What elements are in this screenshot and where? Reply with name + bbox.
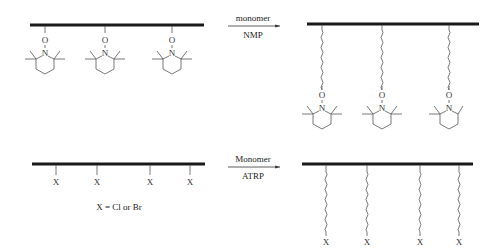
nitrogen-atom: N	[379, 103, 386, 113]
halogen-atom: X	[187, 177, 194, 187]
halogen-atom: X	[456, 237, 463, 247]
oxygen-atom: O	[102, 35, 109, 45]
polymer-grafting-scheme: O N O N O N monomer NMP	[0, 0, 499, 250]
atrp-reaction-arrow: Monomer ATRP	[228, 154, 280, 181]
halogen-legend: X = Cl or Br	[96, 202, 142, 212]
halogen-atom: X	[323, 237, 330, 247]
nmp-reaction-arrow: monomer NMP	[228, 13, 280, 40]
grafted-chain-tempo: O N	[362, 25, 402, 129]
nitrogen-atom: N	[319, 103, 326, 113]
tempo-pendant: O N	[85, 26, 125, 74]
oxygen-atom: O	[169, 35, 176, 45]
halogen-atom: X	[94, 177, 101, 187]
oxygen-atom: O	[446, 90, 453, 100]
atrp-reactant: X X X X X = Cl or Br	[32, 164, 205, 212]
halogen-atom: X	[53, 177, 60, 187]
nitrogen-atom: N	[446, 103, 453, 113]
nmp-product: O N O N O N	[302, 24, 479, 129]
grafted-chain-tempo: O N	[302, 25, 342, 129]
atrp-reagent-label: Monomer	[235, 154, 271, 164]
nitrogen-atom: N	[169, 48, 176, 58]
nmp-method-label: NMP	[243, 30, 263, 40]
oxygen-atom: O	[379, 90, 386, 100]
halide-pendant: X	[94, 165, 101, 187]
tempo-pendant: O N	[152, 26, 192, 74]
grafted-chain-halide: X	[323, 165, 330, 247]
oxygen-atom: O	[42, 35, 49, 45]
nmp-reagent-label: monomer	[236, 13, 271, 23]
atrp-product: X X X X	[302, 164, 473, 247]
atrp-method-label: ATRP	[242, 171, 264, 181]
nmp-reactant: O N O N O N	[25, 25, 204, 74]
halogen-atom: X	[364, 237, 371, 247]
tempo-pendant: O N	[25, 26, 65, 74]
nitrogen-atom: N	[102, 48, 109, 58]
halogen-atom: X	[147, 177, 154, 187]
halide-pendant: X	[147, 165, 154, 187]
oxygen-atom: O	[319, 90, 326, 100]
halide-pendant: X	[187, 165, 194, 187]
nitrogen-atom: N	[42, 48, 49, 58]
grafted-chain-halide: X	[417, 165, 424, 247]
grafted-chain-halide: X	[364, 165, 371, 247]
grafted-chain-halide: X	[456, 165, 463, 247]
halide-pendant: X	[53, 165, 60, 187]
halogen-atom: X	[417, 237, 424, 247]
grafted-chain-tempo: O N	[429, 25, 463, 129]
